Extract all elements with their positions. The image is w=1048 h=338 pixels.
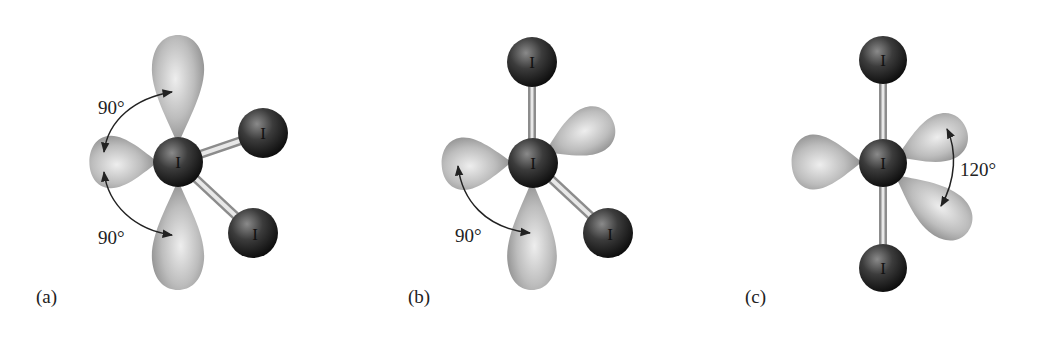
- panel-b: I I I 90° (b): [408, 37, 633, 308]
- atom-symbol: I: [252, 225, 258, 244]
- angle-label: 120°: [960, 159, 996, 180]
- triiodide-geometry-diagram: I I I 90° 90° (a) I I I 90° (b): [0, 0, 1048, 338]
- lone-pair-lobe-left: [441, 136, 513, 191]
- lone-pair-lobe-left: [792, 134, 862, 189]
- angle-label: 90°: [98, 227, 125, 248]
- atom-symbol: I: [607, 225, 613, 244]
- atom-symbol: I: [530, 154, 536, 173]
- lone-pair-lobe-bottom: [507, 180, 557, 290]
- lone-pair-lobe-bottom: [152, 180, 204, 290]
- atom-symbol: I: [880, 51, 886, 70]
- lone-pair-lobe-top: [152, 35, 204, 145]
- panel-label: (a): [36, 286, 57, 308]
- atom-symbol: I: [175, 153, 181, 172]
- angle-label: 90°: [455, 225, 482, 246]
- panel-label: (c): [745, 286, 766, 308]
- panel-a: I I I 90° 90° (a): [36, 35, 288, 308]
- panel-c: I I I 120° (c): [745, 36, 996, 308]
- atom-symbol: I: [880, 259, 886, 278]
- atom-symbol: I: [529, 53, 535, 72]
- panel-label: (b): [408, 286, 430, 308]
- atom-symbol: I: [880, 154, 886, 173]
- lone-pair-lobe-left: [89, 136, 158, 189]
- atom-symbol: I: [260, 124, 266, 143]
- angle-label: 90°: [98, 97, 125, 118]
